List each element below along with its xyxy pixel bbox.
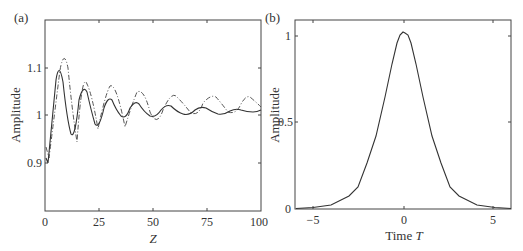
- b-xtick-neg5: −5: [307, 213, 320, 227]
- b-ytick-1: 1: [285, 29, 291, 43]
- a-xtick-25: 25: [93, 215, 105, 229]
- a-ytick-0.9: 0.9: [27, 156, 42, 170]
- figure: (a) 1.1 1 0.9 0 25 50 75 100 Z Amplitude…: [0, 0, 523, 251]
- b-ylabel: Amplitude: [267, 87, 282, 143]
- a-xtick-50: 50: [147, 215, 159, 229]
- b-ytick-0: 0: [285, 202, 291, 216]
- a-xtick-0: 0: [42, 215, 48, 229]
- panel-b-frame: [295, 20, 511, 209]
- panel-a: (a) 1.1 1 0.9 0 25 50 75 100 Z Amplitude: [8, 10, 268, 246]
- panel-b-label: (b): [265, 10, 280, 25]
- b-xtick-0: 0: [401, 213, 407, 227]
- b-pulse-curve: [296, 32, 511, 209]
- panel-a-label: (a): [14, 10, 28, 25]
- panel-b-ticks: [295, 20, 511, 209]
- a-ytick-1: 1: [36, 108, 42, 122]
- a-xtick-75: 75: [201, 215, 213, 229]
- a-ytick-1.1: 1.1: [27, 61, 42, 75]
- a-solid-curve: [46, 70, 261, 163]
- b-xlabel: Time T: [385, 228, 423, 243]
- a-xtick-100: 100: [250, 215, 268, 229]
- b-xtick-5: 5: [490, 213, 496, 227]
- a-ylabel: Amplitude: [8, 87, 23, 143]
- a-xlabel: Z: [149, 231, 157, 246]
- panel-b: (b) 1 0.5 0 −5 0 5 Time T Amplitude: [265, 10, 511, 243]
